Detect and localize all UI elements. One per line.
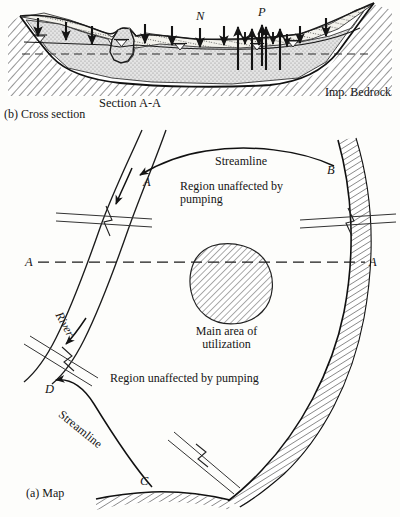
label-region-unaffected-bottom: Region unaffected by pumping [110, 372, 259, 385]
label-N: N [196, 9, 204, 23]
label-P: P [258, 5, 266, 19]
label-section-left-A: A [25, 255, 33, 269]
label-main-area: Main area of utilization [174, 325, 279, 352]
main-area-of-utilization [190, 244, 272, 324]
map-boundary-bottom [96, 492, 230, 510]
label-imp-bedrock: Imp. Bedrock [325, 86, 391, 99]
streamline-bottom [56, 380, 152, 487]
label-streamline-top: Streamline [215, 155, 267, 168]
figure-canvas [0, 0, 400, 517]
road-crossing [168, 432, 240, 494]
label-section-right-A: A [369, 255, 377, 269]
river-flow-arrow [116, 168, 132, 204]
hydrogeology-figure: N P Imp. Bedrock Section A-A (b) Cross s… [0, 0, 400, 517]
label-region-unaffected-top: Region unaffected by pumping [180, 180, 283, 207]
river-bank-right [52, 130, 166, 384]
road-crossing [56, 206, 152, 236]
caption-cross-section: (b) Cross section [4, 108, 85, 121]
label-section-a-a: Section A-A [99, 96, 161, 110]
road-crossing [300, 208, 396, 236]
caption-map: (a) Map [26, 487, 64, 500]
river-bank-left [24, 130, 142, 382]
road-crossing [24, 336, 98, 386]
label-point-A: A [143, 175, 151, 189]
label-point-B: B [327, 163, 335, 177]
label-point-D: D [45, 382, 54, 396]
label-point-C: C [140, 474, 148, 488]
